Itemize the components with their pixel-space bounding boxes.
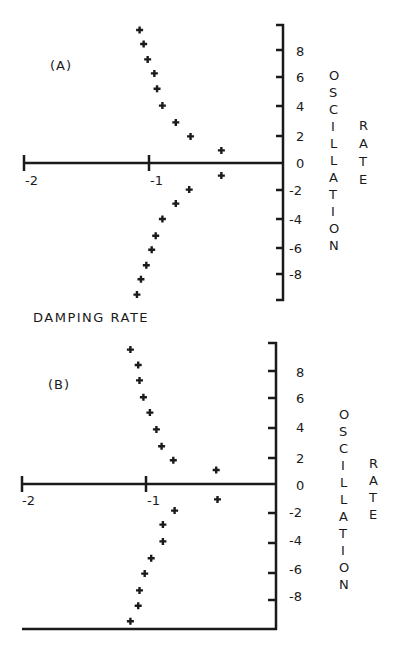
pole-plot-figure: (A) 8 6 4 2 0 -2 -4 -6 -8 <box>0 0 397 648</box>
ylabel-letter: A <box>359 136 368 151</box>
ylabel-letter: I <box>331 119 335 134</box>
y-tick-label: 2 <box>296 451 304 466</box>
data-point-marker <box>151 70 158 77</box>
panel-a-xlabel: DAMPING RATE <box>33 310 149 325</box>
ylabel-letter: E <box>369 507 377 522</box>
data-point-marker <box>141 570 148 577</box>
ylabel-letter: R <box>359 118 368 133</box>
data-point-marker <box>218 147 225 154</box>
y-tick-label: 4 <box>296 99 304 114</box>
ylabel-letter: T <box>368 490 377 505</box>
panel-b-label: (B) <box>48 377 70 392</box>
y-tick-label: 4 <box>296 420 304 435</box>
panel-a-x-tick-labels: -2 -1 <box>25 173 163 188</box>
data-point-marker <box>136 377 143 384</box>
data-point-marker <box>214 496 221 503</box>
ylabel-letter: L <box>340 475 348 490</box>
data-point-marker <box>152 232 159 239</box>
x-tick-label: -2 <box>25 173 38 188</box>
ylabel-letter: N <box>329 238 339 253</box>
data-point-marker <box>137 276 144 283</box>
ylabel-letter: N <box>339 577 349 592</box>
y-tick-label: 8 <box>296 44 304 59</box>
ylabel-letter: A <box>329 170 338 185</box>
y-tick-label: 0 <box>296 156 304 171</box>
y-tick-label: -6 <box>289 562 302 577</box>
panel-b: (B) 8 6 4 2 0 -2 -4 -6 -8 <box>22 342 378 630</box>
ylabel-letter: I <box>341 543 345 558</box>
panel-a-x-axis <box>24 155 283 171</box>
y-tick-label: -8 <box>289 589 302 604</box>
data-point-marker <box>148 246 155 253</box>
ylabel-letter: O <box>339 407 349 422</box>
ylabel-letter: E <box>359 172 367 187</box>
data-point-marker <box>171 507 178 514</box>
ylabel-letter: S <box>339 424 347 439</box>
y-tick-label: -4 <box>289 212 302 227</box>
ylabel-letter: R <box>369 456 378 471</box>
data-point-marker <box>186 186 193 193</box>
data-point-marker <box>127 346 134 353</box>
data-point-marker <box>187 133 194 140</box>
panel-a-ylabel: O S C I L L A T I O N R A T E <box>328 68 368 253</box>
data-point-marker <box>159 102 166 109</box>
data-point-marker <box>148 555 155 562</box>
panel-a-label: (A) <box>50 58 72 73</box>
data-point-marker <box>133 291 140 298</box>
panel-a: (A) 8 6 4 2 0 -2 -4 -6 -8 <box>24 24 368 325</box>
y-tick-label: -2 <box>289 183 302 198</box>
ylabel-letter: S <box>329 85 337 100</box>
data-point-marker <box>159 538 166 545</box>
ylabel-letter: L <box>330 136 338 151</box>
x-tick-label: -2 <box>22 493 35 508</box>
data-point-marker <box>136 587 143 594</box>
panel-b-markers <box>127 346 221 625</box>
ylabel-letter: A <box>369 473 378 488</box>
y-tick-label: 0 <box>296 478 304 493</box>
data-point-marker <box>135 602 142 609</box>
panel-b-y-tick-labels: 8 6 4 2 0 -2 -4 -6 -8 <box>289 365 304 604</box>
data-point-marker <box>170 457 177 464</box>
x-tick-label: -1 <box>150 173 163 188</box>
data-point-marker <box>218 172 225 179</box>
panel-a-y-tick-labels: 8 6 4 2 0 -2 -4 -6 -8 <box>289 44 304 282</box>
ylabel-letter: A <box>339 509 348 524</box>
y-tick-label: -6 <box>289 241 302 256</box>
ylabel-letter: T <box>328 187 337 202</box>
ylabel-letter: C <box>329 102 338 117</box>
ylabel-letter: O <box>339 560 349 575</box>
data-point-marker <box>136 27 143 34</box>
ylabel-letter: C <box>339 441 348 456</box>
y-tick-label: 8 <box>296 365 304 380</box>
data-point-marker <box>144 56 151 63</box>
y-tick-label: 2 <box>296 129 304 144</box>
ylabel-letter: O <box>329 221 339 236</box>
y-tick-label: -8 <box>289 267 302 282</box>
ylabel-letter: I <box>341 458 345 473</box>
data-point-marker <box>154 85 161 92</box>
ylabel-letter: L <box>330 153 338 168</box>
data-point-marker <box>143 262 150 269</box>
data-point-marker <box>213 467 220 474</box>
data-point-marker <box>159 521 166 528</box>
y-tick-label: -4 <box>289 533 302 548</box>
y-tick-label: -2 <box>289 505 302 520</box>
data-point-marker <box>159 216 166 223</box>
panel-b-y-axis <box>268 342 277 630</box>
y-tick-label: 6 <box>296 391 304 406</box>
ylabel-letter: T <box>338 526 347 541</box>
data-point-marker <box>135 362 142 369</box>
panel-b-x-tick-labels: -2 -1 <box>22 493 160 508</box>
data-point-marker <box>172 200 179 207</box>
y-tick-label: 6 <box>296 70 304 85</box>
data-point-marker <box>146 409 153 416</box>
panel-b-ylabel: O S C I L L A T I O N R A T E <box>338 407 378 592</box>
ylabel-letter: L <box>340 492 348 507</box>
data-point-marker <box>140 394 147 401</box>
data-point-marker <box>153 426 160 433</box>
data-point-marker <box>127 618 134 625</box>
data-point-marker <box>172 119 179 126</box>
ylabel-letter: I <box>331 204 335 219</box>
ylabel-letter: T <box>358 154 367 169</box>
x-tick-label: -1 <box>147 493 160 508</box>
